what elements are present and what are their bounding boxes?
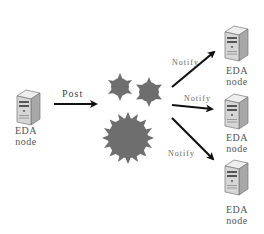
node-label-line1: EDA bbox=[217, 65, 257, 76]
node-label-line2: node bbox=[217, 76, 257, 87]
edge-label-notify-1: Notify bbox=[172, 57, 199, 68]
node-label-line2: node bbox=[6, 136, 46, 147]
node-label-target-3: EDA node bbox=[217, 204, 257, 226]
node-label-source: EDA node bbox=[6, 125, 46, 147]
virus-cluster-icon bbox=[102, 73, 162, 164]
node-label-target-2: EDA node bbox=[217, 132, 257, 154]
node-label-line1: EDA bbox=[6, 125, 46, 136]
node-label-line2: node bbox=[217, 143, 257, 154]
server-icon bbox=[225, 160, 248, 195]
edge-label-notify-3: Notify bbox=[168, 148, 195, 159]
node-label-target-1: EDA node bbox=[217, 65, 257, 87]
notify-arrow-2 bbox=[172, 105, 212, 109]
edge-label-notify-2: Notify bbox=[184, 93, 211, 104]
node-label-line2: node bbox=[217, 215, 257, 226]
node-label-line1: EDA bbox=[217, 132, 257, 143]
server-icon bbox=[225, 26, 248, 61]
edge-label-post: Post bbox=[62, 88, 83, 99]
diagram-canvas: EDA node EDA node EDA node EDA node Post… bbox=[0, 0, 264, 234]
node-label-line1: EDA bbox=[217, 204, 257, 215]
server-icon bbox=[17, 90, 40, 125]
server-icon bbox=[225, 94, 248, 129]
